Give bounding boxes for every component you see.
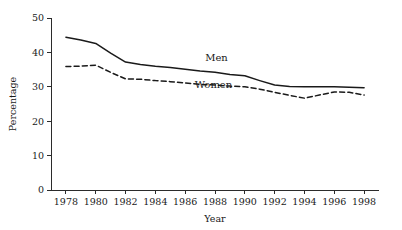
x-tick-label: 1980 [84, 196, 108, 207]
x-tick-label: 1992 [263, 196, 287, 207]
x-tick-label: 1998 [352, 196, 376, 207]
x-axis-title: Year [203, 213, 226, 224]
x-tick-label: 1996 [322, 196, 346, 207]
y-tick-label: 0 [38, 184, 44, 195]
x-tick-label: 1978 [54, 196, 78, 207]
x-tick-label: 1994 [292, 196, 316, 207]
line-chart: 01020304050 1978198019821984198619881990… [0, 0, 402, 230]
y-axis-ticks: 01020304050 [32, 12, 51, 195]
y-tick-label: 40 [32, 47, 44, 58]
x-tick-label: 1984 [143, 196, 167, 207]
y-tick-label: 20 [32, 116, 44, 127]
y-tick-label: 10 [32, 150, 44, 161]
y-axis-title: Percentage [7, 76, 18, 131]
series-label-women: Women [195, 79, 233, 90]
x-axis-ticks: 1978198019821984198619881990199219941996… [54, 190, 376, 207]
series-label-men: Men [205, 52, 228, 63]
x-tick-label: 1986 [173, 196, 197, 207]
y-tick-label: 30 [32, 81, 44, 92]
x-tick-label: 1988 [203, 196, 227, 207]
x-tick-label: 1982 [113, 196, 137, 207]
plot-axes [51, 18, 379, 190]
y-tick-label: 50 [32, 12, 44, 23]
x-tick-label: 1990 [233, 196, 257, 207]
chart-container: 01020304050 1978198019821984198619881990… [0, 0, 402, 230]
